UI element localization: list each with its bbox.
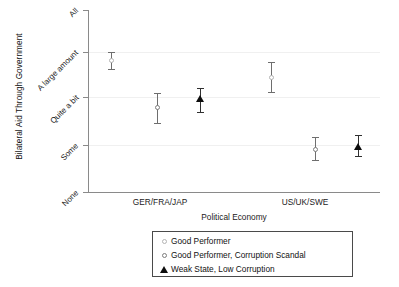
- y-tick-mark-all: [83, 10, 89, 11]
- errorbar-cap-upper-g1-good-performer: [108, 52, 115, 53]
- legend-label-corruption-scandal: Good Performer, Corruption Scandal: [171, 249, 306, 262]
- y-tick-label-some: Some: [59, 141, 80, 162]
- y-tick-label-a-large-amount: A large amount: [36, 48, 80, 92]
- x-axis-line: [88, 192, 380, 193]
- open-circle-light-icon: [162, 239, 167, 244]
- legend-label-weak-state: Weak State, Low Corruption: [171, 263, 275, 276]
- errorbar-cap-upper-g1-weak-state: [197, 88, 204, 89]
- legend-label-good-performer: Good Performer: [171, 235, 230, 248]
- filled-triangle-icon: [160, 266, 168, 273]
- gridline-a-large-amount: [89, 52, 380, 53]
- errorbar-cap-lower-g2-good-performer: [268, 92, 275, 93]
- legend-marker-good-performer: [159, 235, 171, 248]
- gridline-quite-a-bit: [89, 97, 380, 98]
- y-axis-line: [88, 10, 89, 193]
- y-tick-label-none: None: [60, 188, 80, 208]
- errorbar-cap-lower-g2-corruption-scandal: [312, 160, 319, 161]
- x-tick-label-us-uk-swe: US/UK/SWE: [255, 197, 355, 207]
- legend-marker-weak-state: [159, 263, 171, 276]
- y-tick-mark-some: [83, 145, 89, 146]
- errorbar-cap-lower-g1-weak-state: [197, 112, 204, 113]
- errorbar-cap-upper-g2-corruption-scandal: [312, 137, 319, 138]
- errorbar-cap-lower-g1-corruption-scandal: [154, 123, 161, 124]
- errorbar-cap-lower-g2-weak-state: [355, 156, 362, 157]
- y-axis-title: Bilateral Aid Through Government: [15, 2, 24, 192]
- legend-item-weak-state: Weak State, Low Corruption: [159, 263, 275, 276]
- open-circle-mid-icon: [162, 253, 167, 258]
- legend: Good Performer Good Performer, Corruptio…: [152, 231, 353, 277]
- gridline-some: [89, 145, 380, 146]
- datapoint-g2-corruption-scandal: [313, 147, 318, 152]
- x-tick-label-ger-fra-jap: GER/FRA/JAP: [110, 197, 210, 207]
- datapoint-g1-weak-state: [196, 95, 204, 102]
- datapoint-g2-weak-state: [354, 143, 362, 150]
- datapoint-g1-corruption-scandal: [155, 105, 160, 110]
- errorbar-cap-upper-g2-good-performer: [268, 62, 275, 63]
- datapoint-g1-good-performer: [109, 58, 114, 63]
- errorbar-cap-lower-g1-good-performer: [108, 69, 115, 70]
- y-tick-mark-a-large-amount: [83, 52, 89, 53]
- y-tick-label-quite-a-bit: Quite a bit: [48, 93, 80, 125]
- x-axis-title: Political Economy: [88, 212, 380, 222]
- errorbar-cap-upper-g1-corruption-scandal: [154, 93, 161, 94]
- chart-figure: Bilateral Aid Through Government All A l…: [0, 0, 399, 287]
- legend-marker-corruption-scandal: [159, 249, 171, 262]
- y-tick-mark-none: [83, 192, 89, 193]
- y-tick-label-all: All: [68, 6, 81, 19]
- errorbar-cap-upper-g2-weak-state: [355, 135, 362, 136]
- y-tick-mark-quite-a-bit: [83, 97, 89, 98]
- legend-item-corruption-scandal: Good Performer, Corruption Scandal: [159, 249, 306, 262]
- legend-item-good-performer: Good Performer: [159, 235, 230, 248]
- datapoint-g2-good-performer: [269, 75, 274, 80]
